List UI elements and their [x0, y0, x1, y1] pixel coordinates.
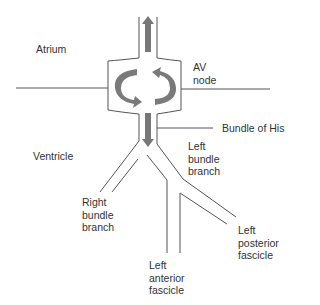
- left-bundle-branch-label: Left bundle branch: [188, 140, 220, 178]
- right-bundle-branch-label: Right bundle branch: [82, 196, 114, 234]
- ventricle-label: Ventricle: [33, 150, 73, 163]
- left-posterior-fascicle-label: Left posterior fascicle: [238, 224, 279, 262]
- av-node-label: AV node: [193, 61, 216, 86]
- circular-arrow-right-icon: [152, 67, 176, 105]
- left-anterior-fascicle-left: [147, 155, 167, 253]
- circular-arrow-left-icon: [115, 69, 142, 108]
- right-bundle-branch-outer: [100, 141, 139, 192]
- atrium-label: Atrium: [36, 43, 66, 56]
- right-bundle-branch-inner: [112, 159, 138, 192]
- left-posterior-fascicle-inner: [180, 193, 227, 224]
- down-arrow-icon: [142, 113, 154, 147]
- left-anterior-fascicle-label: Left anterior fascicle: [149, 259, 185, 297]
- up-arrow-icon: [142, 16, 154, 52]
- bundle-of-his-label: Bundle of His: [222, 122, 284, 135]
